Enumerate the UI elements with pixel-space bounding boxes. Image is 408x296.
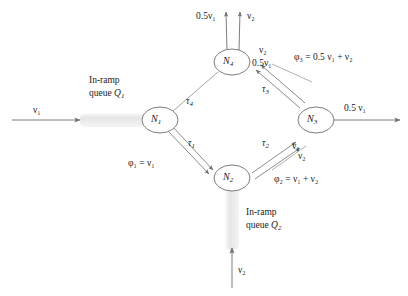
flow-label-nu1-inflow: ν₁ bbox=[33, 105, 41, 117]
flow-label-n4-in-upper: ν₂ bbox=[259, 45, 267, 57]
in-ramp-q2-line1: In-ramp bbox=[246, 206, 281, 219]
link-label-tau4: τ4 bbox=[186, 96, 193, 109]
flow-label-n4-out-right: ν₂ bbox=[247, 11, 255, 23]
outflow-arrow-n4-left bbox=[226, 12, 227, 50]
in-ramp-queue-q2-bar bbox=[225, 186, 239, 250]
flow-label-nu2-inflow: ν₂ bbox=[238, 265, 246, 277]
link-label-tau3: τ3 bbox=[262, 84, 269, 97]
network-diagram-svg bbox=[0, 0, 408, 296]
figure-canvas: N1 N2 N3 N4 τ4 τ1 τ2 τ3 ν₁ ν₂ 0.5 ν₁ 0.5… bbox=[0, 0, 408, 296]
link-tau4 bbox=[173, 72, 218, 111]
outflow-arrow-n4-right bbox=[239, 12, 240, 50]
in-ramp-q1-line2: queue Q1 bbox=[89, 87, 124, 101]
link-label-tau2: τ2 bbox=[262, 138, 269, 151]
in-ramp-q2-line2: queue Q2 bbox=[246, 219, 281, 233]
flow-label-phi2: φ₂ = ν₁ + ν₂ bbox=[274, 174, 318, 186]
flow-label-n4-in-lower: 0.5ν₁ bbox=[252, 58, 271, 70]
in-ramp-queue-q2-label: In-ramp queue Q2 bbox=[246, 206, 281, 233]
in-ramp-queue-q1-label: In-ramp queue Q1 bbox=[89, 74, 124, 101]
node-label-n4: N4 bbox=[223, 55, 233, 68]
node-label-n2: N2 bbox=[223, 171, 233, 184]
flow-label-phi1: φ₁ = ν₁ bbox=[128, 158, 155, 170]
flow-label-n4-out-left: 0.5ν₁ bbox=[196, 11, 215, 23]
in-ramp-q1-line1: In-ramp bbox=[89, 74, 124, 87]
in-ramp-queue-q1-bar bbox=[80, 113, 146, 127]
node-label-n3: N3 bbox=[307, 113, 317, 126]
flow-label-phi3: φ₃ = 0.5 ν₁ + ν₂ bbox=[294, 52, 352, 64]
node-label-n1: N1 bbox=[151, 113, 161, 126]
flow-label-n3-in-lower: ν₂ bbox=[298, 151, 306, 163]
flow-label-n3-outflow: 0.5 ν₁ bbox=[344, 103, 366, 115]
link-label-tau1: τ1 bbox=[188, 138, 195, 151]
